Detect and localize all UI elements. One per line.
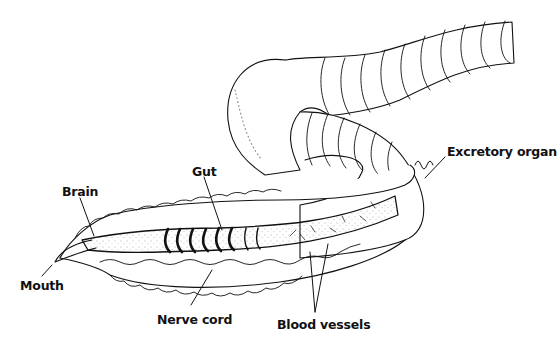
label-nerve-cord: Nerve cord bbox=[157, 312, 232, 327]
excretory-organ-coil bbox=[415, 161, 433, 169]
label-blood-vessels: Blood vessels bbox=[277, 317, 370, 332]
label-gut: Gut bbox=[192, 164, 217, 179]
label-mouth: Mouth bbox=[20, 278, 64, 293]
label-excretory-organ: Excretory organ bbox=[447, 144, 557, 159]
label-brain: Brain bbox=[62, 184, 98, 199]
